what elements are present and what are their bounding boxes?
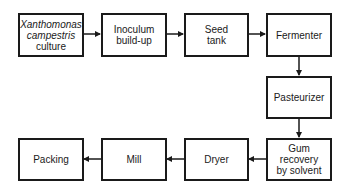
node-culture: Xanthomonas campestris culture	[18, 13, 84, 57]
node-culture-line2: campestris	[20, 30, 82, 41]
node-culture-line3: culture	[20, 41, 82, 52]
node-inoculum-line1: Inoculum	[114, 24, 155, 35]
node-seed-tank: Seed tank	[184, 13, 249, 57]
node-inoculum-line2: build-up	[114, 35, 155, 46]
node-packing-line1: Packing	[33, 154, 69, 165]
node-gum-recovery: Gum recovery by solvent	[266, 138, 332, 181]
node-packing: Packing	[18, 138, 84, 181]
node-fermenter: Fermenter	[266, 13, 332, 57]
node-dryer: Dryer	[184, 138, 249, 181]
node-pasteurizer-line1: Pasteurizer	[274, 92, 325, 103]
node-gum-line1: Gum	[276, 143, 321, 154]
node-inoculum: Inoculum build-up	[101, 13, 167, 57]
node-seed-line2: tank	[205, 35, 228, 46]
node-fermenter-line1: Fermenter	[276, 30, 322, 41]
node-gum-line3: by solvent	[276, 165, 321, 176]
node-gum-line2: recovery	[276, 154, 321, 165]
node-mill-line1: Mill	[127, 154, 142, 165]
node-mill: Mill	[101, 138, 167, 181]
node-pasteurizer: Pasteurizer	[266, 76, 332, 119]
node-culture-line1: Xanthomonas	[20, 19, 82, 30]
node-seed-line1: Seed	[205, 24, 228, 35]
node-dryer-line1: Dryer	[204, 154, 228, 165]
